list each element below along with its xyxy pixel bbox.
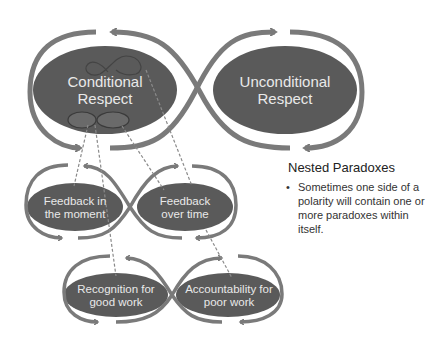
nested-oval-lower-left xyxy=(68,112,96,128)
bullet-item: Sometimes one side of a polarity will co… xyxy=(284,180,434,236)
bottom-polarity xyxy=(64,256,282,322)
top-polarity xyxy=(30,32,362,148)
unconditional-respect-ellipse xyxy=(213,46,357,134)
connector-1 xyxy=(74,125,88,186)
side-title: Nested Paradoxes xyxy=(288,160,434,175)
accountability-ellipse xyxy=(176,273,280,317)
middle-polarity xyxy=(26,165,236,238)
nested-oval-lower-right xyxy=(97,112,129,128)
feedback-overtime-ellipse xyxy=(137,183,233,231)
side-bullets: Sometimes one side of a polarity will co… xyxy=(284,180,434,236)
recognition-ellipse xyxy=(64,273,168,317)
side-panel: Nested Paradoxes Sometimes one side of a… xyxy=(284,160,434,236)
feedback-moment-ellipse xyxy=(27,183,123,231)
